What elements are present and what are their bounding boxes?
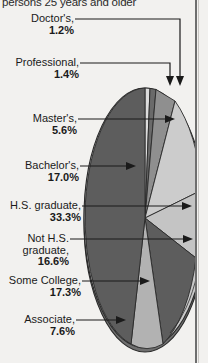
callout-associate-value: 7.6%	[0, 326, 75, 338]
callout-masters-value: 5.6%	[0, 125, 77, 137]
callout-hs-graduate-name: H.S. graduate,	[0, 200, 81, 212]
arrow-professional	[166, 76, 174, 86]
leader-doctors	[75, 19, 180, 78]
leader-professional	[80, 63, 170, 78]
page-border-rule-light	[198, 0, 199, 363]
callout-professional: Professional, 1.4%	[0, 57, 79, 80]
callout-associate: Associate, 7.6%	[0, 314, 75, 337]
callout-masters: Master's, 5.6%	[0, 113, 77, 136]
callout-bachelors-value: 17.0%	[0, 172, 79, 184]
page-border-rule	[195, 0, 197, 363]
pie-body	[84, 88, 206, 352]
callout-some-college-name: Some College,	[0, 275, 81, 287]
callout-hs-graduate: H.S. graduate, 33.3%	[0, 200, 81, 223]
callout-professional-name: Professional,	[0, 57, 79, 69]
callout-not-hs-value: 16.6%	[0, 256, 69, 268]
callout-associate-name: Associate,	[0, 314, 75, 326]
callout-not-hs-graduate: Not H.S. graduate, 16.6%	[0, 233, 69, 268]
callout-masters-name: Master's,	[0, 113, 77, 125]
callout-bachelors-name: Bachelor's,	[0, 160, 79, 172]
callout-bachelors: Bachelor's, 17.0%	[0, 160, 79, 183]
callout-professional-value: 1.4%	[0, 69, 79, 81]
callout-not-hs-name1: Not H.S.	[0, 233, 69, 245]
arrow-doctors	[176, 76, 184, 86]
callout-hs-graduate-value: 33.3%	[0, 212, 81, 224]
callout-doctors: Doctor's, 1.2%	[0, 13, 74, 36]
callout-some-college-value: 17.3%	[0, 287, 81, 299]
callout-doctors-value: 1.2%	[0, 25, 74, 37]
callout-doctors-name: Doctor's,	[0, 13, 74, 25]
pie-chart-figure: persons 25 years and older	[0, 0, 208, 363]
callout-some-college: Some College, 17.3%	[0, 275, 81, 298]
